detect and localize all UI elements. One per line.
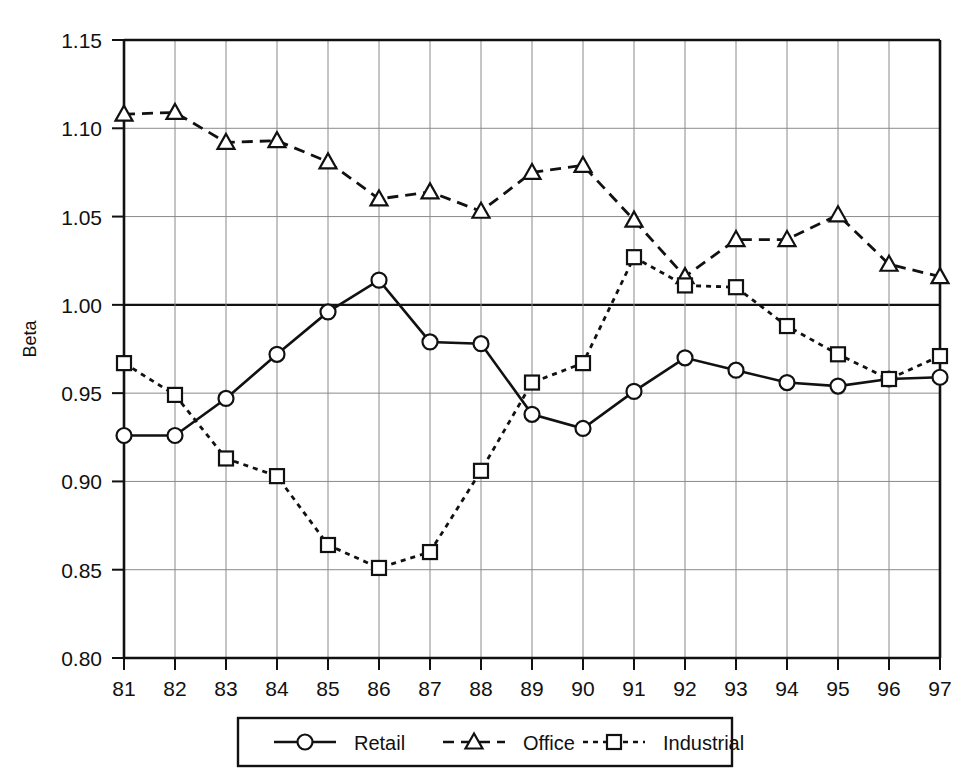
chart-legend: RetailOfficeIndustrial [238, 718, 744, 766]
grid-layer [124, 40, 940, 658]
x-tick-label: 81 [112, 677, 135, 700]
data-point-marker [627, 384, 642, 399]
legend-label-text: Retail [354, 732, 405, 754]
data-point-marker [678, 278, 692, 292]
data-point-marker [321, 304, 336, 319]
x-tick-label: 88 [469, 677, 492, 700]
data-point-marker [474, 464, 488, 478]
data-point-marker [729, 363, 744, 378]
data-point-marker [576, 356, 590, 370]
data-point-marker [320, 153, 337, 168]
data-point-marker [831, 347, 845, 361]
x-tick-label: 93 [724, 677, 747, 700]
x-tick-label: 84 [265, 677, 289, 700]
y-tick-label: 1.15 [61, 29, 102, 52]
y-tick-label: 0.95 [61, 382, 102, 405]
data-point-marker [780, 319, 794, 333]
data-point-marker [830, 206, 847, 221]
data-point-marker [270, 469, 284, 483]
x-tick-label: 92 [673, 677, 696, 700]
x-tick-label: 95 [826, 677, 849, 700]
data-point-marker [168, 428, 183, 443]
x-tick-labels: 8182838485868788899091929394959697 [112, 677, 951, 700]
data-point-marker [831, 379, 846, 394]
data-point-marker [474, 336, 489, 351]
x-tick-label: 96 [877, 677, 900, 700]
y-tick-labels: 0.800.850.900.951.001.051.101.15 [61, 29, 102, 670]
data-point-marker [423, 545, 437, 559]
y-tick-label: 1.10 [61, 117, 102, 140]
x-tick-label: 97 [928, 677, 951, 700]
x-tick-label: 89 [520, 677, 543, 700]
data-point-marker [882, 372, 896, 386]
x-tick-label: 82 [163, 677, 186, 700]
data-point-marker [219, 391, 234, 406]
data-point-marker [321, 538, 335, 552]
y-tick-label: 0.85 [61, 559, 102, 582]
y-tick-label: 1.05 [61, 206, 102, 229]
data-point-marker [575, 157, 592, 172]
legend-marker-square-icon [607, 735, 621, 749]
legend-marker-circle-icon [298, 735, 313, 750]
legend-label-text: Industrial [663, 732, 744, 754]
data-point-marker [117, 356, 131, 370]
data-point-marker [576, 421, 591, 436]
x-tick-label: 91 [622, 677, 645, 700]
data-point-marker [780, 375, 795, 390]
data-point-marker [678, 350, 693, 365]
data-point-marker [933, 349, 947, 363]
x-tick-label: 83 [214, 677, 237, 700]
y-tick-label: 1.00 [61, 294, 102, 317]
data-point-marker [423, 334, 438, 349]
x-tick-label: 86 [367, 677, 390, 700]
y-axis-title-text: Beta [20, 319, 40, 357]
axis-layer [112, 40, 940, 670]
chart-container: 0.800.850.900.951.001.051.101.15 8182838… [0, 0, 975, 784]
data-point-marker [219, 451, 233, 465]
data-point-marker [933, 370, 948, 385]
y-tick-label: 0.80 [61, 647, 102, 670]
data-point-marker [371, 190, 388, 205]
data-point-marker [525, 407, 540, 422]
data-point-marker [168, 388, 182, 402]
data-point-marker [525, 376, 539, 390]
data-point-marker [729, 280, 743, 294]
data-point-marker [372, 561, 386, 575]
data-point-marker [422, 183, 439, 198]
data-point-marker [627, 250, 641, 264]
data-point-marker [269, 132, 286, 147]
legend-label-text: Office [523, 732, 575, 754]
y-axis-title: Beta [20, 319, 40, 357]
data-point-marker [270, 347, 285, 362]
x-tick-label: 90 [571, 677, 594, 700]
y-tick-label: 0.90 [61, 470, 102, 493]
x-tick-label: 85 [316, 677, 339, 700]
beta-line-chart: 0.800.850.900.951.001.051.101.15 8182838… [0, 0, 975, 784]
data-point-marker [372, 273, 387, 288]
x-tick-label: 87 [418, 677, 441, 700]
data-point-marker [117, 428, 132, 443]
x-tick-label: 94 [775, 677, 799, 700]
